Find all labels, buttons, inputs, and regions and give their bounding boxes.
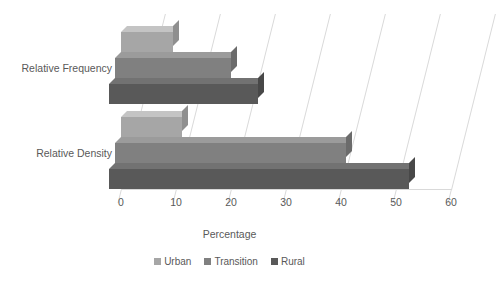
bar-face <box>121 117 182 137</box>
bar-side-face <box>409 157 415 183</box>
legend-swatch-rural <box>271 258 278 265</box>
chart-legend: UrbanTransitionRural <box>0 256 459 267</box>
gridline <box>451 14 496 190</box>
x-tick-label: 0 <box>109 196 133 208</box>
plot-area <box>121 14 451 190</box>
bar-top-face <box>109 78 264 84</box>
legend-item-urban[interactable]: Urban <box>154 256 191 267</box>
bar-urban-frequency <box>121 32 173 52</box>
bar-transition-density <box>115 143 346 163</box>
bar-rural-frequency <box>109 84 258 104</box>
bar-side-face <box>173 20 179 46</box>
bar-side-face <box>258 72 264 98</box>
bar-side-face <box>231 46 237 72</box>
bar-top-face <box>115 52 237 58</box>
bar-side-face <box>182 105 188 131</box>
bar-rural-density <box>109 169 409 189</box>
x-tick-label: 10 <box>164 196 188 208</box>
bar-top-face <box>121 111 188 117</box>
legend-label: Rural <box>281 256 305 267</box>
x-axis-title: Percentage <box>0 228 459 240</box>
x-tick-label: 40 <box>329 196 353 208</box>
bar-face <box>109 84 258 104</box>
bar-transition-frequency <box>115 58 231 78</box>
bar-urban-density <box>121 117 182 137</box>
legend-item-transition[interactable]: Transition <box>204 256 258 267</box>
bar-face <box>121 32 173 52</box>
x-tick-label: 50 <box>384 196 408 208</box>
bar-top-face <box>115 137 352 143</box>
bar-face <box>115 58 231 78</box>
legend-swatch-transition <box>204 258 211 265</box>
legend-swatch-urban <box>154 258 161 265</box>
legend-label: Transition <box>214 256 258 267</box>
x-tick-label: 30 <box>274 196 298 208</box>
category-label-relative-density: Relative Density <box>0 147 112 159</box>
bar-face <box>115 143 346 163</box>
category-label-relative-frequency: Relative Frequency <box>0 62 112 74</box>
bar-face <box>109 169 409 189</box>
legend-item-rural[interactable]: Rural <box>271 256 305 267</box>
x-tick-label: 20 <box>219 196 243 208</box>
bar-top-face <box>109 163 415 169</box>
legend-label: Urban <box>164 256 191 267</box>
bar-top-face <box>121 26 179 32</box>
x-tick-label: 60 <box>439 196 463 208</box>
